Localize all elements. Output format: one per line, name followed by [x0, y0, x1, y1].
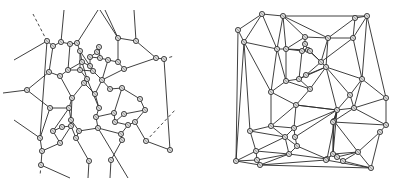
- delaunay-node-icon: [291, 125, 296, 130]
- voronoi-node-icon: [112, 119, 117, 124]
- voronoi-node-icon: [143, 138, 148, 143]
- delaunay-node-icon: [323, 64, 328, 69]
- voronoi-edge: [135, 122, 146, 141]
- delaunay-node-icon: [359, 76, 364, 81]
- delaunay-edge: [362, 16, 367, 79]
- voronoi-open-ray: [100, 10, 118, 38]
- voronoi-diagram: [0, 0, 200, 185]
- voronoi-node-icon: [66, 105, 71, 110]
- voronoi-node-icon: [46, 69, 51, 74]
- voronoi-node-icon: [121, 66, 126, 71]
- delaunay-node-icon: [282, 134, 287, 139]
- delaunay-edge: [333, 122, 386, 125]
- delaunay-node-icon: [383, 122, 388, 127]
- voronoi-node-icon: [44, 38, 49, 43]
- voronoi-node-icon: [58, 39, 63, 44]
- voronoi-edge: [122, 88, 140, 99]
- delaunay-edge: [277, 49, 286, 81]
- voronoi-edge: [40, 41, 47, 138]
- delaunay-node-icon: [286, 151, 291, 156]
- voronoi-open-ray: [14, 41, 47, 60]
- voronoi-node-icon: [108, 157, 113, 162]
- delaunay-edge: [260, 160, 326, 165]
- voronoi-edges: [3, 10, 176, 178]
- voronoi-node-icon: [119, 85, 124, 90]
- delaunay-node-icon: [302, 34, 307, 39]
- voronoi-edge: [60, 76, 72, 98]
- delaunay-edge: [294, 110, 337, 128]
- voronoi-node-icon: [105, 57, 110, 62]
- voronoi-open-ray: [77, 10, 98, 43]
- delaunay-node-icon: [334, 154, 339, 159]
- delaunay-node-icon: [254, 157, 259, 162]
- delaunay-edge: [354, 108, 386, 125]
- delaunay-node-icon: [307, 48, 312, 53]
- delaunay-node-icon: [334, 107, 339, 112]
- delaunay-edge: [256, 137, 285, 151]
- delaunay-node-icon: [296, 76, 301, 81]
- delaunay-node-icon: [383, 95, 388, 100]
- voronoi-node-icon: [47, 105, 52, 110]
- voronoi-node-icon: [87, 63, 92, 68]
- delaunay-node-icon: [325, 35, 330, 40]
- delaunay-edge: [358, 132, 380, 152]
- delaunay-node-icon: [318, 59, 323, 64]
- delaunay-node-icon: [293, 102, 298, 107]
- delaunay-node-icon: [323, 157, 328, 162]
- voronoi-node-icon: [24, 87, 29, 92]
- delaunay-edge: [250, 126, 271, 131]
- voronoi-node-icon: [119, 137, 124, 142]
- delaunay-edge: [334, 121, 358, 152]
- delaunay-edge: [271, 105, 296, 126]
- voronoi-edge: [76, 138, 89, 161]
- voronoi-edge: [27, 72, 49, 90]
- voronoi-node-icon: [153, 55, 158, 60]
- voronoi-node-icon: [74, 40, 79, 45]
- voronoi-open-ray: [3, 90, 27, 93]
- voronoi-node-icon: [161, 56, 166, 61]
- voronoi-open-ray: [14, 120, 40, 138]
- voronoi-node-icon: [87, 54, 92, 59]
- voronoi-open-ray: [41, 165, 70, 178]
- voronoi-node-icon: [68, 123, 73, 128]
- voronoi-node-icon: [115, 59, 120, 64]
- voronoi-node-icon: [57, 73, 62, 78]
- delaunay-edge: [305, 37, 328, 38]
- voronoi-node-icon: [50, 43, 55, 48]
- delaunay-node-icon: [364, 13, 369, 18]
- delaunay-edge: [250, 131, 256, 151]
- delaunay-edge: [277, 16, 283, 49]
- voronoi-edge: [111, 140, 122, 160]
- delaunay-node-icon: [352, 15, 357, 20]
- voronoi-open-ray: [33, 14, 47, 41]
- voronoi-node-icon: [142, 107, 147, 112]
- delaunay-triangulation: [200, 0, 402, 185]
- voronoi-node-icon: [96, 105, 101, 110]
- delaunay-node-icon: [268, 123, 273, 128]
- delaunay-edge: [244, 42, 277, 49]
- delaunay-node-icon: [347, 92, 352, 97]
- delaunay-node-icon: [368, 165, 373, 170]
- voronoi-node-icon: [95, 125, 100, 130]
- delaunay-node-icon: [292, 134, 297, 139]
- voronoi-node-icon: [38, 162, 43, 167]
- delaunay-edge: [244, 42, 271, 92]
- delaunay-edge: [296, 105, 337, 110]
- voronoi-node-icon: [65, 67, 70, 72]
- delaunay-node-icon: [355, 149, 360, 154]
- delaunay-edge: [262, 14, 277, 49]
- delaunay-node-icon: [377, 129, 382, 134]
- voronoi-edge: [49, 46, 53, 72]
- delaunay-node-icon: [351, 105, 356, 110]
- delaunay-edge: [238, 14, 262, 30]
- delaunay-edge: [286, 81, 310, 89]
- delaunay-edge: [286, 37, 305, 49]
- voronoi-diagram-panel: Voronoi diagram: [0, 0, 200, 185]
- delaunay-edge: [283, 16, 305, 37]
- delaunay-triangulation-panel: Delaunay triangulation: [200, 0, 402, 185]
- voronoi-node-icon: [121, 111, 126, 116]
- delaunay-node-icon: [247, 128, 252, 133]
- voronoi-node-icon: [167, 147, 172, 152]
- delaunay-edge: [271, 49, 277, 92]
- voronoi-node-icon: [99, 77, 104, 82]
